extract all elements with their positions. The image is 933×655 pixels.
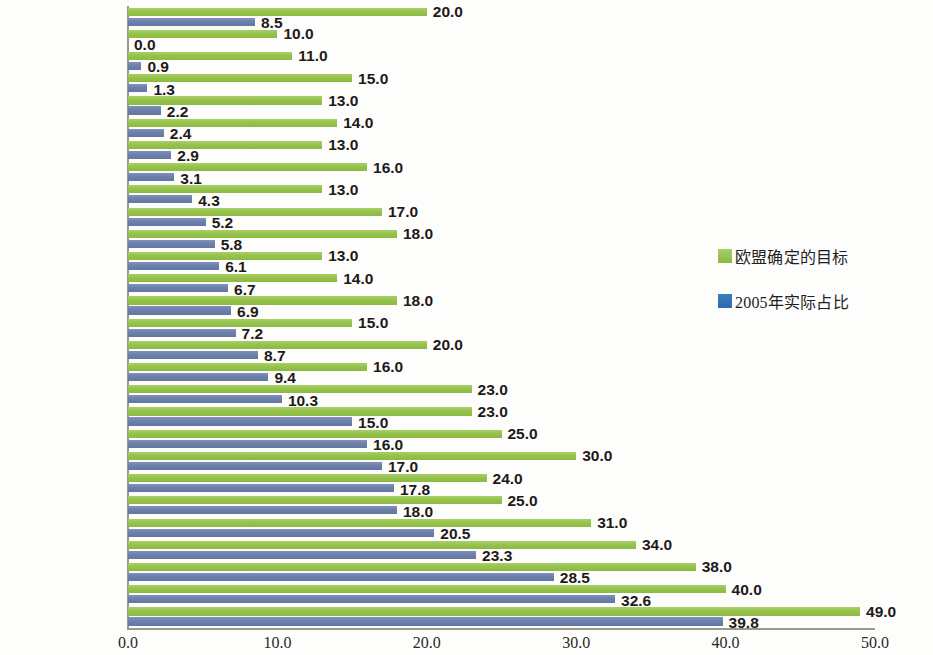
bar-value-target: 15.0: [358, 314, 388, 332]
x-axis-tick-label: 30.0: [562, 634, 590, 652]
chart-row: 马尔他10.00.0: [128, 28, 875, 50]
bar-value-actual: 39.8: [729, 614, 759, 632]
legend-item-actual[interactable]: 2005年实际占比: [718, 289, 849, 313]
bar-actual[interactable]: [128, 484, 394, 492]
bar-target[interactable]: [128, 141, 322, 149]
chart-row: 匈牙利13.04.3: [128, 184, 875, 206]
chart-row: 爱沙尼亚25.018.0: [128, 495, 875, 517]
bar-target[interactable]: [128, 163, 367, 171]
bar-target[interactable]: [128, 185, 322, 193]
bar-value-target: 23.0: [478, 403, 508, 421]
bar-actual[interactable]: [128, 595, 615, 603]
bar-value-target: 11.0: [298, 47, 327, 65]
bar-actual[interactable]: [128, 240, 215, 248]
bar-actual[interactable]: [128, 84, 147, 92]
bar-value-target: 24.0: [493, 470, 523, 488]
bar-target[interactable]: [128, 230, 397, 238]
bar-actual[interactable]: [128, 551, 476, 559]
legend-swatch-blue-icon: [718, 294, 732, 308]
bar-value-target: 20.0: [433, 3, 463, 21]
bar-actual[interactable]: [128, 106, 161, 114]
bar-target[interactable]: [128, 541, 636, 549]
bar-actual[interactable]: [128, 617, 723, 625]
bar-value-target: 14.0: [343, 270, 373, 288]
bar-actual[interactable]: [128, 506, 397, 514]
chart-row: 罗马利亚24.017.8: [128, 473, 875, 495]
bar-value-target: 13.0: [328, 136, 358, 154]
bar-value-target: 18.0: [403, 225, 433, 243]
bar-actual[interactable]: [128, 440, 367, 448]
bar-actual[interactable]: [128, 329, 236, 337]
bar-value-target: 15.0: [358, 70, 388, 88]
bar-value-target: 13.0: [328, 181, 358, 199]
bar-value-target: 34.0: [642, 536, 672, 554]
legend-swatch-green-icon: [718, 249, 732, 263]
x-axis-tick-label: 40.0: [712, 634, 740, 652]
chart-row: 西班牙20.08.7: [128, 339, 875, 361]
bar-target[interactable]: [128, 452, 576, 460]
bar-target[interactable]: [128, 274, 337, 282]
bar-target[interactable]: [128, 319, 352, 327]
bar-value-target: 10.0: [283, 25, 313, 43]
chart-row: 奥地利34.023.3: [128, 539, 875, 561]
chart-legend: 欧盟确定的目标 2005年实际占比: [718, 244, 849, 334]
chart-row: 拉脱维亚40.032.6: [128, 584, 875, 606]
bar-actual[interactable]: [128, 151, 171, 159]
bar-value-target: 23.0: [478, 381, 508, 399]
bar-value-target: 25.0: [508, 425, 538, 443]
chart-row: 欧盟27国总计20.08.5: [128, 6, 875, 28]
bar-target[interactable]: [128, 563, 696, 571]
bar-value-target: 18.0: [403, 292, 433, 310]
bar-actual[interactable]: [128, 129, 164, 137]
bar-target[interactable]: [128, 474, 487, 482]
bar-value-target: 31.0: [597, 514, 627, 532]
bar-target[interactable]: [128, 496, 502, 504]
chart-row: 芬兰38.028.5: [128, 561, 875, 583]
bar-target[interactable]: [128, 296, 397, 304]
chart-row: 塞浦路斯13.02.9: [128, 139, 875, 161]
bar-target[interactable]: [128, 208, 382, 216]
bar-value-target: 20.0: [433, 336, 463, 354]
bar-actual[interactable]: [128, 529, 434, 537]
bar-actual[interactable]: [128, 262, 219, 270]
chart-container: 欧盟27国总计20.08.5马尔他10.00.0卢森堡11.00.9英国15.0…: [0, 0, 933, 655]
bar-value-target: 25.0: [508, 492, 538, 510]
bar-actual[interactable]: [128, 373, 268, 381]
bar-target[interactable]: [128, 407, 472, 415]
bar-target[interactable]: [128, 119, 337, 127]
bar-actual[interactable]: [128, 18, 255, 26]
chart-row: 卢森堡11.00.9: [128, 50, 875, 72]
bar-actual[interactable]: [128, 284, 228, 292]
bar-value-target: 49.0: [866, 603, 896, 621]
x-axis-tick-label: 0.0: [118, 634, 138, 652]
chart-row: 斯洛文尼亚25.016.0: [128, 428, 875, 450]
bar-actual[interactable]: [128, 195, 192, 203]
bar-actual[interactable]: [128, 306, 231, 314]
x-axis-tick-label: 50.0: [861, 634, 889, 652]
chart-row: 瑞典49.039.8: [128, 606, 875, 628]
bar-value-target: 16.0: [373, 159, 403, 177]
x-axis-line: [127, 628, 875, 630]
bar-actual[interactable]: [128, 218, 206, 226]
bar-actual[interactable]: [128, 395, 282, 403]
x-axis-tick-label: 10.0: [263, 634, 291, 652]
bar-target[interactable]: [128, 96, 322, 104]
bar-target[interactable]: [128, 430, 502, 438]
chart-row: 意大利17.05.2: [128, 206, 875, 228]
bar-actual[interactable]: [128, 173, 174, 181]
chart-row: 立陶宛23.015.0: [128, 406, 875, 428]
chart-row: 英国15.01.3: [128, 73, 875, 95]
bar-actual[interactable]: [128, 462, 382, 470]
legend-item-target[interactable]: 欧盟确定的目标: [718, 244, 849, 268]
bar-value-target: 17.0: [388, 203, 418, 221]
x-axis-tick-label: 20.0: [413, 634, 441, 652]
bar-value-target: 30.0: [582, 447, 612, 465]
bar-target[interactable]: [128, 519, 591, 527]
bar-target[interactable]: [128, 363, 367, 371]
bar-actual[interactable]: [128, 417, 352, 425]
bar-actual[interactable]: [128, 351, 258, 359]
legend-label-target: 欧盟确定的目标: [735, 244, 848, 268]
chart-row: 葡萄牙31.020.5: [128, 517, 875, 539]
bar-actual[interactable]: [128, 573, 554, 581]
bar-actual[interactable]: [128, 62, 141, 70]
